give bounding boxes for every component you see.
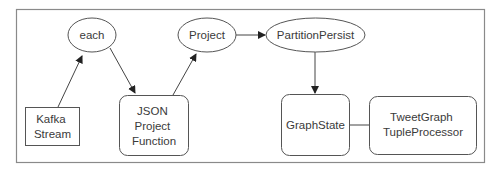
node-project-label: Project [189, 29, 226, 41]
node-tweetgraph-label-2: TupleProcessor [383, 126, 463, 138]
svg-text:each: each [80, 29, 105, 41]
node-each: each [68, 18, 116, 52]
svg-text:Project: Project [189, 29, 226, 41]
svg-text:PartitionPersist: PartitionPersist [277, 29, 355, 41]
edge-each-to-json [110, 48, 135, 93]
node-graphstate-label: GraphState [286, 119, 345, 131]
svg-text:JSON Project Funct: JSON Project Function [132, 105, 176, 147]
node-kafka-label-1: Kafka [36, 113, 66, 125]
node-project: Project [178, 18, 236, 52]
node-json-project-function: JSON Project Function [120, 96, 189, 156]
node-tweetgraph-label-1: TweetGraph [390, 111, 453, 123]
node-partition-persist: PartitionPersist [266, 18, 365, 52]
node-json-label-3: Function [132, 135, 176, 147]
node-each-label: each [80, 29, 105, 41]
svg-text:GraphState: GraphState [286, 119, 345, 131]
edge-kafka-to-each [58, 56, 82, 107]
topology-diagram: each Kafka Stream JSON Project Function … [0, 0, 502, 172]
node-tweetgraph-tupleprocessor: TweetGraph TupleProcessor [370, 97, 477, 155]
node-json-label-1: JSON [137, 105, 168, 117]
node-kafka-stream: Kafka Stream [26, 108, 80, 146]
node-json-label-2: Project [135, 120, 172, 132]
node-graph-state: GraphState [282, 95, 350, 156]
edge-json-to-project [173, 54, 196, 95]
node-kafka-label-2: Stream [34, 128, 71, 140]
node-partition-label: PartitionPersist [277, 29, 355, 41]
